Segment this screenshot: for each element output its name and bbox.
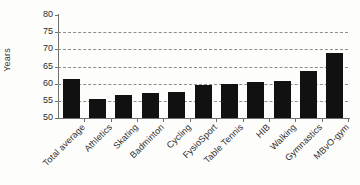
gridline [58, 67, 348, 68]
y-axis-tick-label: 80 [35, 9, 53, 19]
x-axis-tick-mark [269, 118, 270, 122]
x-axis-tick-mark [243, 118, 244, 122]
y-axis-tick-label: 60 [35, 78, 53, 88]
bar [300, 71, 317, 118]
bar [142, 93, 159, 118]
x-axis-tick-label: Athletics [82, 122, 114, 154]
x-axis-tick-mark [295, 118, 296, 122]
bar [115, 95, 132, 118]
bar [274, 81, 291, 118]
y-axis-title: Years [2, 32, 16, 88]
bar-chart: Years 80757065605550 Total averageAthlet… [0, 0, 360, 185]
x-axis-tick-label: Total average [41, 122, 87, 168]
gridline [58, 32, 348, 33]
x-axis-tick-mark [190, 118, 191, 122]
x-axis-tick-label: HIB [254, 122, 272, 140]
x-axis-tick-mark [111, 118, 112, 122]
bar [63, 79, 80, 118]
x-axis-tick-mark [137, 118, 138, 122]
y-axis-tick-label: 55 [35, 95, 53, 105]
y-axis-tick-label: 65 [35, 61, 53, 71]
x-axis-line [58, 118, 350, 119]
bar [89, 99, 106, 118]
bar [247, 82, 264, 118]
y-axis-tick-label: 70 [35, 43, 53, 53]
x-axis-tick-mark [84, 118, 85, 122]
y-axis-tick-label: 50 [35, 112, 53, 122]
bar [326, 53, 343, 118]
y-axis-tick-label: 75 [35, 26, 53, 36]
bar [195, 85, 212, 118]
plot-area [58, 15, 348, 118]
x-axis-tick-mark [163, 118, 164, 122]
x-axis-tick-mark [322, 118, 323, 122]
x-axis-tick-mark [348, 118, 349, 122]
bar [168, 92, 185, 118]
bar [221, 84, 238, 118]
gridline [58, 49, 348, 50]
x-axis-tick-mark [216, 118, 217, 122]
